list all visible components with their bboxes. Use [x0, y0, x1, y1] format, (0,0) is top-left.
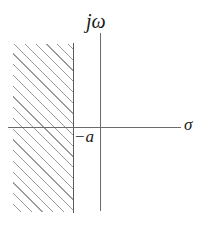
imaginary-axis-label: jω	[86, 11, 106, 31]
boundary-tick-label: −a	[74, 128, 94, 145]
real-axis-line	[8, 127, 181, 128]
imaginary-axis-line	[100, 33, 101, 211]
s-plane-figure: jω σ −a	[0, 0, 207, 231]
real-axis-label: σ	[184, 116, 192, 133]
